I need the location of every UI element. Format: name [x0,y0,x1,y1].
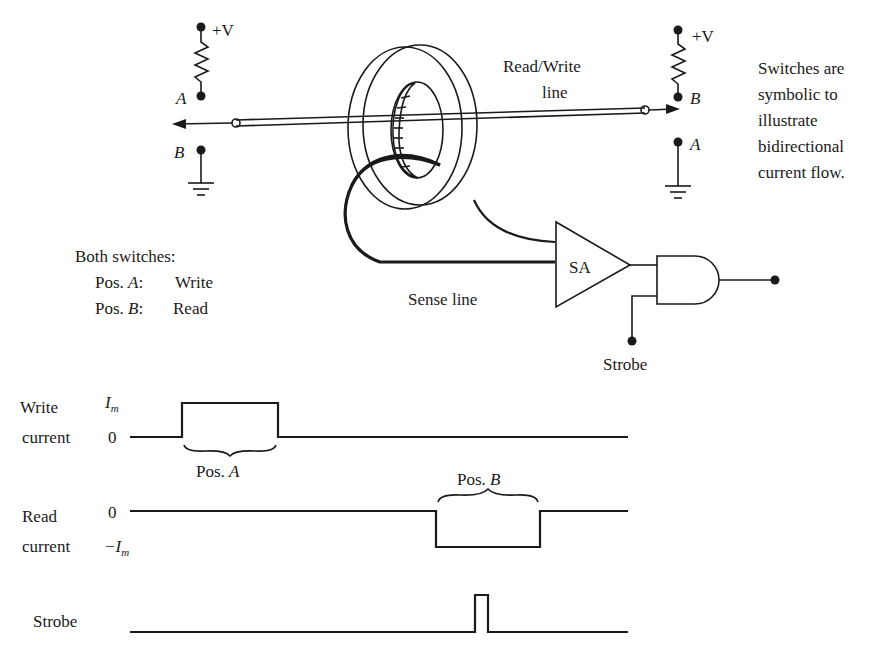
right-contact-a-label: A [689,135,701,154]
legend-row-b: Pos. B: Read [95,299,208,318]
svg-text:illustrate: illustrate [758,111,817,130]
arrow-right-icon [666,104,680,114]
right-contact-b-label: B [690,89,701,108]
svg-text:current flow.: current flow. [758,163,845,182]
switch-legend: Both switches: Pos. A: Write Pos. B: Rea… [75,247,213,318]
svg-text:0: 0 [108,428,117,447]
output-terminal [771,276,780,285]
left-supply-label: +V [212,21,235,40]
svg-text:symbolic to: symbolic to [758,85,838,104]
left-resistor-icon [195,31,208,96]
brace-pos-b-icon [438,489,538,502]
left-supply-terminal [197,23,206,32]
svg-text:Pos. B: Pos. B [457,470,501,489]
right-supply-label: +V [692,27,715,46]
left-contact-b-label: B [174,143,185,162]
right-contact-b [674,93,683,102]
svg-text:current: current [22,537,70,556]
left-ground-icon [188,183,214,195]
brace-pos-a-icon [184,445,276,456]
right-ground-icon [665,186,691,198]
legend-title: Both switches: [75,247,176,266]
arrow-left-icon [172,119,186,129]
svg-text:current: current [22,428,70,447]
sense-line-return [474,200,555,242]
svg-text:bidirectional: bidirectional [758,137,844,156]
strobe-waveform: Strobe [33,595,628,632]
svg-text:Switches are: Switches are [758,59,844,78]
right-supply-terminal [674,26,683,35]
svg-text:Read/Write: Read/Write [503,57,581,76]
strobe-terminal [628,337,637,346]
switch-note: Switches are symbolic to illustrate bidi… [758,59,845,182]
sense-amp-label: SA [569,258,591,277]
svg-text:line: line [542,83,568,102]
right-resistor-icon [672,34,685,97]
magnetic-core-icon [348,45,477,209]
strobe-label: Strobe [603,355,647,374]
read-write-line [172,104,680,129]
sense-line-label: Sense line [408,290,477,309]
sense-amplifier: SA [556,222,630,307]
left-contact-a [197,92,206,101]
svg-text:0: 0 [108,503,117,522]
sense-line [345,155,555,262]
svg-text:Strobe: Strobe [33,612,77,631]
svg-text:Read: Read [22,507,57,526]
right-switch: +V B A [665,26,715,199]
core-memory-diagram: +V A B +V B A Switches are symbolic to [0,0,893,660]
svg-text:−Im: −Im [104,537,129,558]
left-contact-a-label: A [175,89,187,108]
svg-text:Pos. A: Pos. A [196,462,240,481]
legend-row-a: Pos. A: Write [95,273,213,292]
sense-line-through-core [352,158,440,185]
left-switch: +V A B [174,21,235,195]
svg-text:Write: Write [20,398,58,417]
read-write-line-label: Read/Write line [503,57,581,102]
and-gate-icon [628,256,780,346]
read-current-waveform: Pos. B Read current 0 −Im [22,470,628,558]
write-current-waveform: Write current Im 0 Pos. A [20,393,628,481]
svg-text:Im: Im [104,393,119,414]
right-line-terminal [641,106,649,114]
